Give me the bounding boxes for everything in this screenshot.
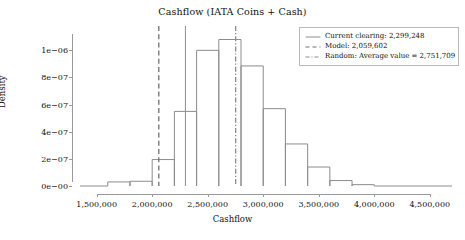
x-tick-label: 3,500,000 <box>298 200 339 209</box>
x-tick-mark <box>97 194 98 197</box>
y-tick-mark <box>69 159 72 160</box>
legend-line-swatch <box>305 43 321 51</box>
y-tick-mark <box>69 77 72 78</box>
legend-line-swatch <box>305 33 321 41</box>
legend-line-swatch <box>305 53 321 61</box>
x-tick-mark <box>263 194 264 197</box>
y-tick-mark <box>69 50 72 51</box>
x-tick-mark <box>430 194 431 197</box>
y-tick-mark <box>69 105 72 106</box>
legend-label: Model: 2,059,602 <box>325 42 387 51</box>
y-tick-label: 0e−00 <box>41 182 68 191</box>
y-tick-label: 2e−07 <box>41 154 68 163</box>
chart-figure: Cashflow (IATA Coins + Cash) 0e−002e−074… <box>0 0 465 240</box>
y-tick-label: 1e−06 <box>41 46 68 55</box>
y-axis-label: Density <box>0 75 7 108</box>
y-tick-label: 8e−07 <box>41 73 68 82</box>
legend-entry: Current clearing: 2,299,248 <box>305 32 453 41</box>
x-tick-mark <box>208 194 209 197</box>
y-tick-label: 6e−07 <box>41 100 68 109</box>
y-axis-spine <box>72 34 73 182</box>
x-tick-label: 3,000,000 <box>243 200 284 209</box>
x-tick-mark <box>319 194 320 197</box>
legend-entry: Random: Average value = 2,751,709 <box>305 52 453 61</box>
chart-legend: Current clearing: 2,299,248Model: 2,059,… <box>299 27 459 66</box>
x-tick-mark <box>152 194 153 197</box>
x-axis-label: Cashflow <box>0 214 465 224</box>
y-axis: 0e−002e−074e−076e−078e−071e−06 <box>72 34 74 182</box>
y-tick-label: 4e−07 <box>41 127 68 136</box>
chart-title: Cashflow (IATA Coins + Cash) <box>0 6 465 17</box>
x-tick-mark <box>374 194 375 197</box>
x-axis: 1,500,0002,000,0002,500,0003,000,0003,50… <box>80 194 452 196</box>
x-tick-label: 1,500,000 <box>76 200 117 209</box>
x-tick-label: 4,500,000 <box>409 200 450 209</box>
x-tick-label: 4,000,000 <box>354 200 395 209</box>
legend-label: Random: Average value = 2,751,709 <box>325 52 455 61</box>
y-tick-mark <box>69 132 72 133</box>
x-tick-label: 2,500,000 <box>187 200 228 209</box>
x-tick-label: 2,000,000 <box>132 200 173 209</box>
legend-entry: Model: 2,059,602 <box>305 42 453 51</box>
legend-label: Current clearing: 2,299,248 <box>325 32 425 41</box>
y-tick-mark <box>69 186 72 187</box>
